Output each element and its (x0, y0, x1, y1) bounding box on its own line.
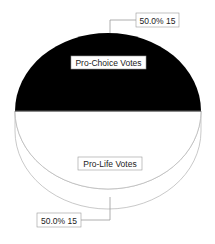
value-label-pro-life: 50.0% 15 (37, 213, 81, 227)
value-label-text: 50.0% 15 (41, 216, 77, 226)
slice-label-text: Pro-Life Votes (83, 159, 136, 169)
slice-label-pro-choice: Pro-Choice Votes (71, 56, 146, 69)
pie-slice-pro-choice-votes (15, 33, 201, 111)
leader-line-pro-choice (110, 20, 136, 33)
slice-label-text: Pro-Choice Votes (75, 58, 141, 68)
value-label-text: 50.0% 15 (140, 16, 176, 26)
value-label-pro-choice: 50.0% 15 (136, 13, 179, 27)
slice-label-pro-life: Pro-Life Votes (78, 157, 142, 170)
pie-chart: Pro-Choice Votes Pro-Life Votes 50.0% 15… (0, 0, 215, 244)
